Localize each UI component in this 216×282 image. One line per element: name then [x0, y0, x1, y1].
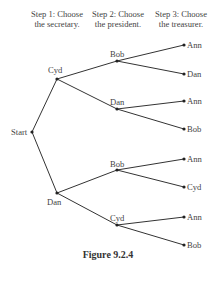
- node-l2-dan: Dan: [110, 97, 125, 107]
- leaf-ann-3: Ann: [187, 154, 203, 164]
- node-l2-bob: Bob: [110, 49, 124, 59]
- leaf-cyd: Cyd: [187, 182, 202, 192]
- tree-diagram: Start Cyd Dan Bob Dan Bob Cyd Ann Dan An…: [0, 0, 216, 282]
- node-l2-cyd: Cyd: [110, 213, 125, 223]
- node-l1-cyd: Cyd: [48, 65, 63, 75]
- leaf-ann-2: Ann: [187, 96, 203, 106]
- leaf-dan: Dan: [187, 69, 202, 79]
- figure-caption: Figure 9.2.4: [0, 249, 216, 260]
- leaf-ann-4: Ann: [187, 212, 203, 222]
- node-l1-dan: Dan: [47, 197, 62, 207]
- leaf-bob-1: Bob: [187, 124, 201, 134]
- leaf-ann-1: Ann: [187, 40, 203, 50]
- node-start: Start: [11, 127, 28, 137]
- node-l2-bob-2: Bob: [110, 159, 124, 169]
- tree-edges: [32, 45, 184, 245]
